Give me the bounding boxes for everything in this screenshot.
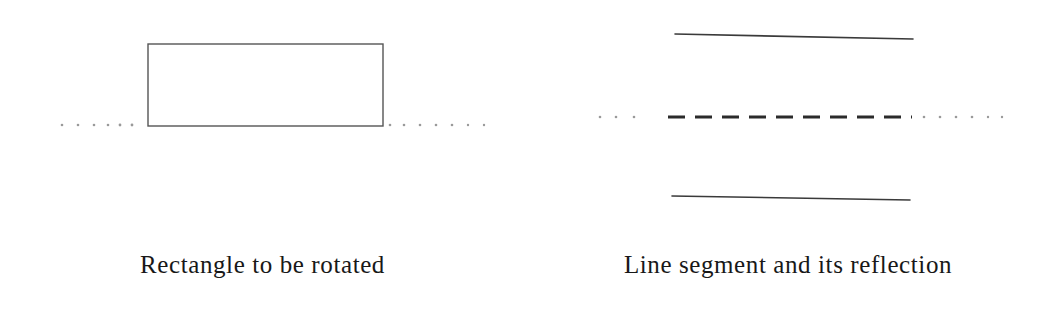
reflected-line-segment	[672, 196, 910, 200]
original-line-segment	[675, 34, 913, 39]
axis-dots-left	[61, 124, 134, 127]
rectangle-shape	[148, 44, 383, 126]
mirror-axis-lead-dots	[599, 116, 636, 119]
mirror-axis-trail-dots	[923, 116, 1003, 119]
rectangle-panel: Rectangle to be rotated	[0, 0, 525, 313]
reflection-panel: Line segment and its reflection	[525, 0, 1051, 313]
reflection-panel-caption: Line segment and its reflection	[525, 250, 1051, 280]
figure-canvas: Rectangle to be rotated	[0, 0, 1051, 313]
rectangle-panel-caption: Rectangle to be rotated	[0, 250, 525, 280]
axis-dots-right	[389, 124, 485, 127]
